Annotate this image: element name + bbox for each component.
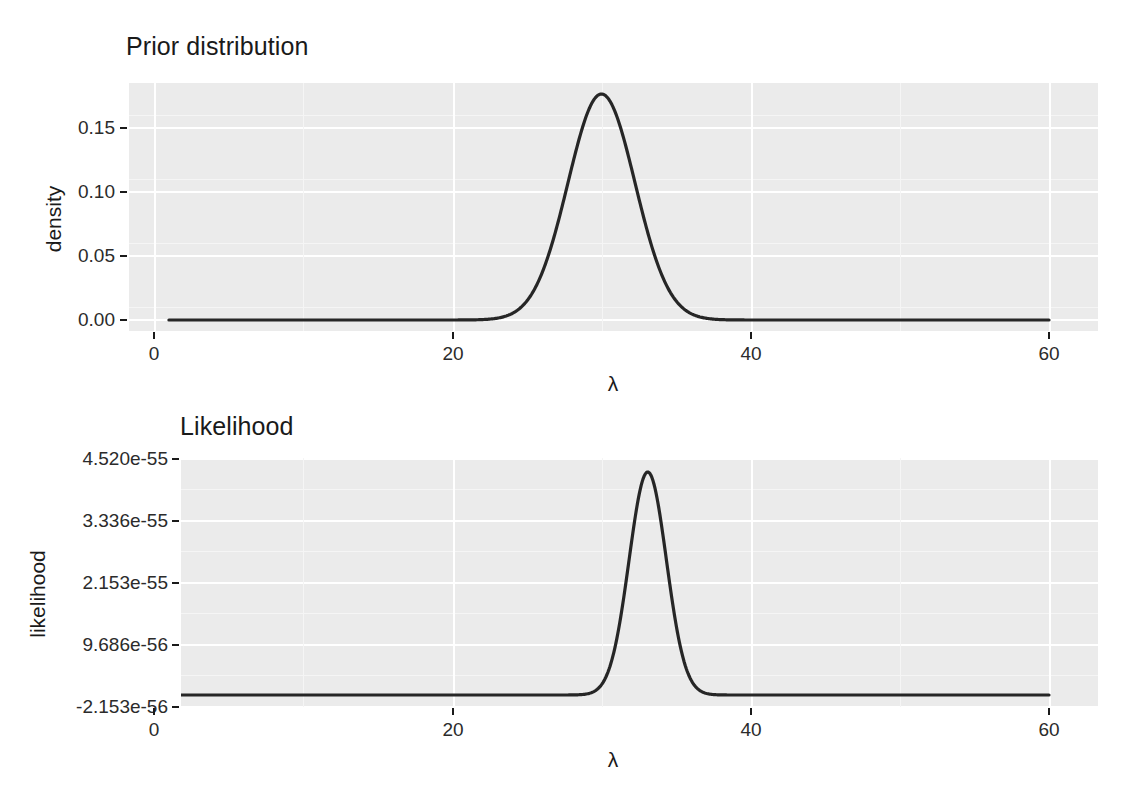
density-curve-svg-prior — [129, 83, 1098, 331]
y-tick-label-3: 0.15 — [30, 117, 115, 139]
x-tick-label-3: 60 — [1038, 343, 1059, 365]
y-tick-mark-3 — [120, 127, 127, 129]
plot-panel-prior — [129, 83, 1098, 331]
x-tick-mark-0 — [153, 332, 155, 339]
x-tick-mark-0 — [153, 708, 155, 715]
y-tick-label-1: 0.05 — [30, 245, 115, 267]
y-tick-mark-1 — [120, 255, 127, 257]
x-tick-mark-1 — [452, 708, 454, 715]
x-tick-label-2: 40 — [740, 343, 761, 365]
x-tick-mark-2 — [750, 708, 752, 715]
y-tick-mark-4 — [172, 458, 179, 460]
y-tick-label-3: 3.336e-55 — [0, 510, 168, 532]
y-tick-label-1: 9.686e-56 — [0, 634, 168, 656]
x-axis-title-lambda: λ — [608, 748, 619, 772]
plot-title-prior: Prior distribution — [126, 32, 308, 61]
y-tick-mark-2 — [120, 191, 127, 193]
y-tick-mark-1 — [172, 644, 179, 646]
y-tick-mark-2 — [172, 582, 179, 584]
x-tick-mark-3 — [1048, 708, 1050, 715]
x-tick-label-1: 20 — [442, 343, 463, 365]
density-curve-prior — [169, 94, 1049, 320]
y-tick-label-2: 2.153e-55 — [0, 572, 168, 594]
plot-prior-distribution: Prior distribution density 0.00 0.05 0.1… — [0, 0, 1126, 400]
figure-canvas: Prior distribution density 0.00 0.05 0.1… — [0, 0, 1126, 800]
y-tick-label-0: -2.153e-56 — [0, 696, 168, 718]
x-tick-label-2: 40 — [740, 719, 761, 741]
x-tick-mark-2 — [750, 332, 752, 339]
plot-panel-likelihood — [181, 458, 1098, 707]
plot-likelihood: Likelihood likelihood -2.153e-56 9.686e-… — [0, 390, 1126, 800]
y-tick-mark-0 — [120, 319, 127, 321]
y-tick-label-0: 0.00 — [30, 309, 115, 331]
y-tick-mark-3 — [172, 520, 179, 522]
y-tick-label-2: 0.10 — [30, 181, 115, 203]
x-tick-label-3: 60 — [1038, 719, 1059, 741]
x-tick-label-1: 20 — [442, 719, 463, 741]
likelihood-curve — [181, 472, 1049, 695]
x-tick-label-0: 0 — [149, 343, 160, 365]
likelihood-curve-svg — [181, 458, 1098, 707]
x-tick-label-0: 0 — [149, 719, 160, 741]
x-tick-mark-1 — [452, 332, 454, 339]
y-tick-label-4: 4.520e-55 — [0, 448, 168, 470]
plot-title-likelihood: Likelihood — [180, 412, 294, 441]
x-tick-mark-3 — [1048, 332, 1050, 339]
y-tick-mark-0 — [172, 706, 179, 708]
